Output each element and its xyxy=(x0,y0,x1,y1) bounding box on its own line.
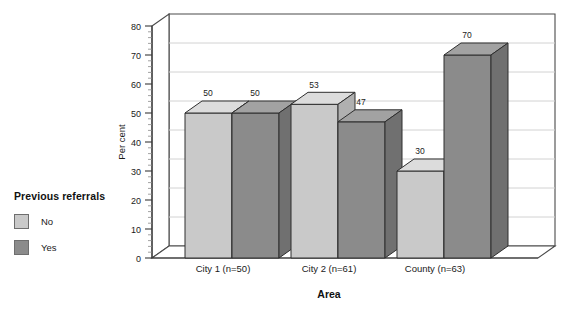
y-tick-label-60: 60 xyxy=(131,80,141,90)
data-label-county-yes: 70 xyxy=(462,30,472,40)
y-tick-label-10: 10 xyxy=(131,225,141,235)
bar-county-yes xyxy=(444,43,508,258)
y-axis-title: Per cent xyxy=(116,124,127,160)
x-axis-tick-labels: City 1 (n=50) City 2 (n=61) County (n=63… xyxy=(196,263,466,274)
data-label-city-1-yes: 50 xyxy=(250,88,260,98)
y-tick-label-50: 50 xyxy=(131,109,141,119)
data-label-city-2-yes: 47 xyxy=(356,97,366,107)
plot-left-wall xyxy=(152,14,169,258)
x-tick-label-city-1: City 1 (n=50) xyxy=(196,263,251,274)
y-tick-label-30: 30 xyxy=(131,167,141,177)
data-label-city-2-no: 53 xyxy=(309,80,319,90)
x-tick-label-city-2: City 2 (n=61) xyxy=(302,263,357,274)
bar-chart: 0 10 20 30 40 50 60 70 80 Per cent xyxy=(0,0,572,312)
y-tick-label-80: 80 xyxy=(131,22,141,32)
y-tick-label-20: 20 xyxy=(131,196,141,206)
chart-svg: 0 10 20 30 40 50 60 70 80 Per cent xyxy=(0,0,572,312)
bar-group-city-1: 50 50 xyxy=(185,88,296,258)
bar-city-2-yes xyxy=(338,110,402,258)
data-label-county-no: 30 xyxy=(415,146,425,156)
y-axis-tick-labels: 0 10 20 30 40 50 60 70 80 xyxy=(131,22,141,264)
y-tick-label-40: 40 xyxy=(131,138,141,148)
data-label-city-1-no: 50 xyxy=(203,88,213,98)
bar-city-1-yes xyxy=(232,101,296,258)
x-axis-title: Area xyxy=(317,288,341,300)
y-tick-label-70: 70 xyxy=(131,51,141,61)
y-tick-label-0: 0 xyxy=(136,254,141,264)
x-tick-label-county: County (n=63) xyxy=(405,263,465,274)
